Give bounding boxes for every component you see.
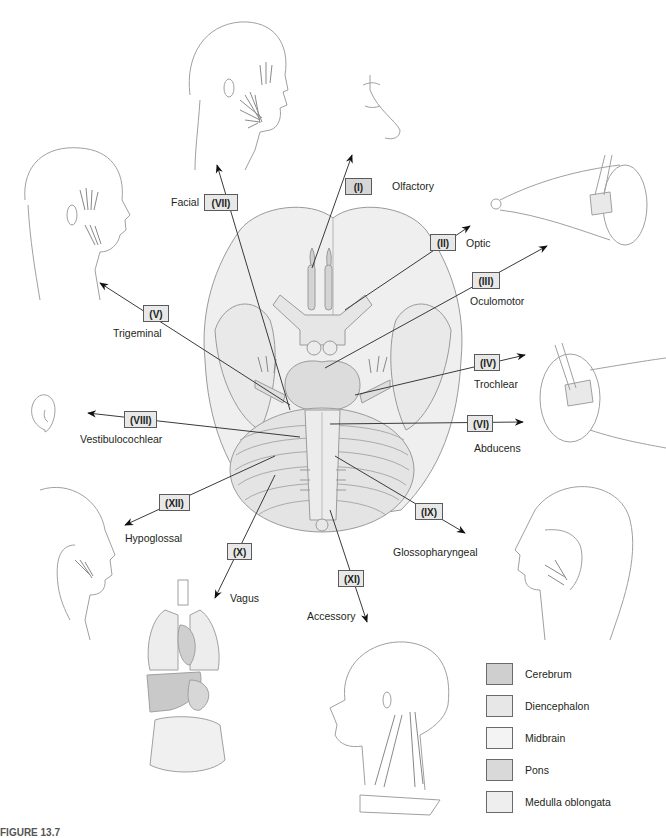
- eye-trochlear-illustration: [540, 343, 666, 448]
- nerve-label-hypoglossal: Hypoglossal: [125, 532, 182, 544]
- nerve-box-IV: (IV): [474, 354, 500, 371]
- nerve-label-vestibulocochlear: Vestibulocochlear: [80, 433, 162, 445]
- legend-item-cerebrum: Cerebrum: [486, 658, 611, 690]
- nerve-label-trochlear: Trochlear: [474, 378, 518, 390]
- legend-swatch: [486, 759, 513, 781]
- ear-illustration: [32, 395, 55, 432]
- brain-inferior-view: [204, 207, 462, 532]
- nerve-box-VI: (VI): [467, 415, 493, 432]
- nerve-label-trigeminal: Trigeminal: [113, 327, 162, 339]
- legend-item-midbrain: Midbrain: [486, 722, 611, 754]
- nose-illustration: [363, 75, 400, 139]
- nerve-box-III: (III): [472, 272, 500, 289]
- nerve-box-V: (V): [143, 305, 169, 322]
- legend-label: Midbrain: [525, 732, 565, 744]
- nerve-label-oculomotor: Oculomotor: [470, 295, 524, 307]
- nerve-label-olfactory: Olfactory: [392, 180, 434, 192]
- legend-swatch: [486, 727, 513, 749]
- hypoglossal-head-illustration: [40, 487, 115, 640]
- nerve-box-I: (I): [345, 178, 372, 195]
- nerve-box-XI: (XI): [338, 570, 364, 587]
- legend-label: Diencephalon: [525, 700, 589, 712]
- nerve-box-XII: (XII): [159, 494, 190, 511]
- legend-item-pons: Pons: [486, 754, 611, 786]
- eye-optic-illustration: [491, 155, 647, 245]
- glossopharyngeal-head-illustration: [515, 487, 633, 640]
- nerve-box-VIII: (VIII): [124, 411, 157, 428]
- legend-label: Cerebrum: [525, 668, 572, 680]
- nerve-box-IX: (IX): [415, 503, 443, 520]
- nerve-label-facial: Facial: [171, 196, 199, 208]
- legend-label: Pons: [525, 764, 549, 776]
- nerve-label-accessory: Accessory: [307, 610, 355, 622]
- legend-swatch: [486, 663, 513, 685]
- nerve-label-abducens: Abducens: [474, 442, 521, 454]
- accessory-head-illustration: [330, 642, 449, 815]
- legend-item-diencephalon: Diencephalon: [486, 690, 611, 722]
- legend-swatch: [486, 791, 513, 813]
- trigeminal-head-illustration: [25, 148, 130, 300]
- legend-swatch: [486, 695, 513, 717]
- nerve-label-vagus: Vagus: [230, 592, 259, 604]
- thoracic-abdominal-organs-illustration: [147, 580, 225, 772]
- nerve-box-X: (X): [227, 543, 252, 560]
- nerve-label-glossopharyngeal: Glossopharyngeal: [393, 546, 478, 558]
- nerve-box-VII: (VII): [204, 194, 238, 211]
- facial-head-illustration: [189, 22, 288, 170]
- nerve-box-II: (II): [430, 234, 456, 251]
- legend-item-medulla-oblongata: Medulla oblongata: [486, 786, 611, 818]
- legend-label: Medulla oblongata: [525, 796, 611, 808]
- figure-caption: FIGURE 13.7: [0, 827, 60, 838]
- brain-region-legend: Cerebrum Diencephalon Midbrain Pons Medu…: [486, 658, 611, 818]
- nerve-label-optic: Optic: [466, 237, 491, 249]
